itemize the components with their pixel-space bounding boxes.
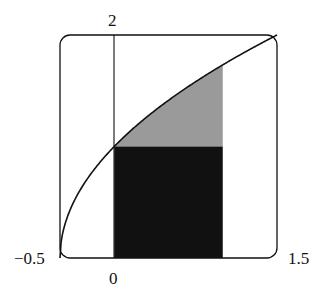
y-top-label: 2 <box>108 12 117 29</box>
x-left-label: −0.5 <box>14 250 45 267</box>
x-right-label: 1.5 <box>288 250 309 267</box>
grey-region <box>114 65 223 147</box>
plot-area <box>0 0 327 295</box>
black-rectangle <box>114 147 223 259</box>
x-zero-label: 0 <box>109 270 118 287</box>
